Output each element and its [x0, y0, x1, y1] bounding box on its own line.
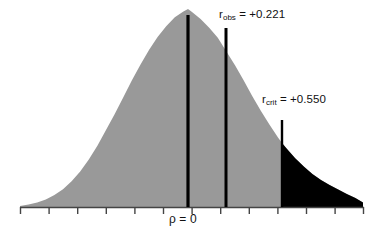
r-critical-label: rcrit = +0.550: [262, 93, 326, 105]
r-critical-subscript: crit: [266, 98, 277, 107]
sampling-distribution-chart: [0, 0, 378, 241]
rho-null-label: ρ = 0: [169, 212, 197, 226]
r-observed-value: = +0.221: [236, 8, 286, 20]
r-critical-value: = +0.550: [277, 93, 327, 105]
r-observed-label: robs = +0.221: [219, 8, 285, 20]
r-observed-subscript: obs: [223, 13, 236, 22]
